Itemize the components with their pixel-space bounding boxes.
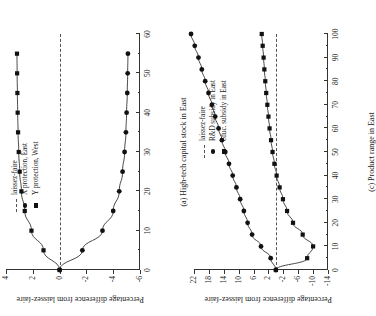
- y-tick-label: -4: [109, 276, 117, 282]
- plot-area-a: 0102030405060-6-4-2024 laissez-faireX pr…: [6, 34, 140, 270]
- y-tick: [313, 270, 314, 274]
- legend-a: laissez-faireX protection, EastY protect…: [10, 141, 41, 212]
- data-point-marker: [265, 103, 269, 107]
- data-point-marker: [238, 197, 243, 202]
- y-tick-label: 2: [29, 276, 37, 280]
- x-tick-label: 20: [332, 219, 340, 227]
- y-tick: [140, 270, 141, 274]
- x-tick-label: 10: [144, 227, 152, 235]
- legend-item-label: laissez-faire: [198, 106, 208, 141]
- legend-circle-marker-icon: [20, 199, 30, 212]
- y-tick-label: -2: [280, 276, 288, 282]
- data-point-marker: [241, 209, 246, 214]
- data-point-marker: [15, 91, 19, 95]
- x-tick-label: 40: [332, 172, 340, 180]
- y-tick-label: -10: [309, 276, 317, 286]
- series-line: [262, 34, 313, 270]
- x-tick-label: 70: [332, 101, 340, 109]
- y-tick-label: -2: [83, 276, 91, 282]
- x-tick-label: 90: [332, 54, 340, 62]
- data-point-marker: [311, 244, 315, 248]
- chart-panel-a: 0102030405060-6-4-2024 laissez-faireX pr…: [0, 0, 187, 316]
- x-tick-label: 30: [144, 148, 152, 156]
- y-tick-label: 4: [2, 276, 10, 280]
- plot-area-c: 0102030405060708090100-14-10-6-226101418…: [194, 34, 328, 270]
- legend-item-label: laissez-faire: [10, 160, 20, 195]
- y-tick: [224, 270, 225, 274]
- data-point-marker: [267, 126, 271, 130]
- data-point-marker: [192, 43, 197, 48]
- data-point-marker: [274, 268, 278, 272]
- data-point-marker: [80, 248, 85, 253]
- y-tick: [298, 270, 299, 274]
- y-tick: [268, 270, 269, 274]
- data-point-marker: [29, 229, 33, 233]
- x-tick-label: 60: [144, 30, 152, 38]
- data-point-marker: [111, 209, 116, 214]
- data-point-marker: [117, 189, 122, 194]
- data-point-marker: [100, 228, 105, 233]
- y-tick: [254, 270, 255, 274]
- y-tick-label: -14: [324, 276, 332, 286]
- y-tick-label: 18: [205, 276, 213, 284]
- data-point-marker: [196, 55, 201, 60]
- x-tick-label: 30: [332, 195, 340, 203]
- data-point-marker: [261, 44, 265, 48]
- series-line: [60, 54, 128, 270]
- x-axis-title-a: (a) High-tech capital stock in East: [179, 34, 188, 270]
- legend-c: laissez-faireR&D subsidy in Easteduc. su…: [198, 80, 229, 158]
- y-tick-label: 14: [220, 276, 228, 284]
- x-tick-label: 100: [332, 28, 340, 39]
- data-point-marker: [270, 150, 274, 154]
- legend-item-label: educ. subsidy in East: [219, 80, 229, 141]
- legend-square-marker-icon: [219, 145, 229, 158]
- data-point-marker: [125, 91, 130, 96]
- data-point-marker: [263, 79, 267, 83]
- y-axis-title-c: Percentage difference from laissez-faire: [204, 295, 332, 304]
- data-point-marker: [122, 150, 127, 155]
- y-tick: [283, 270, 284, 274]
- y-tick-label: 2: [265, 276, 273, 280]
- legend-item: X protection, East: [20, 141, 30, 212]
- y-tick-label: 10: [235, 276, 243, 284]
- data-point-marker: [126, 51, 131, 56]
- data-point-marker: [15, 52, 19, 56]
- data-point-marker: [272, 162, 276, 166]
- data-point-marker: [199, 67, 204, 72]
- x-tick-label: 10: [332, 243, 340, 251]
- x-tick-label: 50: [332, 148, 340, 156]
- data-point-marker: [189, 32, 194, 37]
- chart-panel-c: 0102030405060708090100-14-10-6-226101418…: [188, 0, 375, 316]
- data-point-marker: [305, 256, 309, 260]
- y-tick-label: -6: [136, 276, 144, 282]
- y-tick: [33, 270, 34, 274]
- data-point-marker: [120, 169, 125, 174]
- legend-item: laissez-faire: [10, 141, 20, 212]
- legend-square-marker-icon: [31, 199, 41, 212]
- data-point-marker: [264, 91, 268, 95]
- data-point-marker: [275, 174, 279, 178]
- legend-item-label: R&D subsidy in East: [208, 80, 218, 141]
- y-tick: [209, 270, 210, 274]
- data-point-marker: [124, 130, 129, 135]
- data-point-marker: [250, 232, 255, 237]
- x-tick-label: 80: [332, 77, 340, 85]
- data-point-marker: [16, 111, 20, 115]
- legend-dashed-line-icon: [10, 199, 20, 212]
- data-point-marker: [58, 268, 62, 272]
- data-point-marker: [227, 161, 232, 166]
- x-tick-label: 0: [144, 268, 152, 272]
- data-point-marker: [245, 220, 250, 225]
- y-tick: [113, 270, 114, 274]
- legend-item: educ. subsidy in East: [219, 80, 229, 158]
- y-tick-label: 0: [56, 276, 64, 280]
- data-point-marker: [16, 130, 20, 134]
- data-point-marker: [262, 56, 266, 60]
- legend-circle-marker-icon: [208, 145, 218, 158]
- data-point-marker: [124, 110, 129, 115]
- y-tick: [6, 270, 7, 274]
- y-axis-title-a: Percentage difference from laissez-faire: [16, 295, 144, 304]
- data-point-marker: [234, 185, 239, 190]
- data-point-marker: [259, 244, 264, 249]
